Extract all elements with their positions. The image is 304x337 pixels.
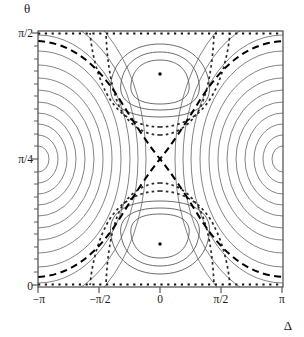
phase-portrait-plot: θ Δ π/2 π/4 0 −π −π/2 0 π/2 π bbox=[0, 0, 304, 337]
x-tick-label-pi-over-2: π/2 bbox=[214, 293, 229, 305]
contour-field bbox=[0, 0, 304, 321]
y-tick-label-zero: 0 bbox=[27, 280, 33, 292]
x-tick-label-pi: π bbox=[279, 293, 285, 305]
x-tick-label-minus-pi: −π bbox=[33, 293, 45, 305]
y-axis-label: θ bbox=[24, 1, 30, 16]
separatrix bbox=[38, 41, 283, 277]
y-tick-label-pi-over-4: π/4 bbox=[18, 153, 33, 165]
lower-elliptic-fixed-point bbox=[158, 242, 161, 245]
major-tick-marks bbox=[32, 33, 282, 293]
upper-elliptic-fixed-point bbox=[158, 72, 161, 75]
lower-island-contours bbox=[110, 201, 209, 274]
phase-portrait-figure: θ Δ π/2 π/4 0 −π −π/2 0 π/2 π bbox=[0, 0, 304, 337]
x-tick-label-zero: 0 bbox=[157, 293, 163, 305]
x-tick-label-minus-pi-over-2: −π/2 bbox=[89, 293, 110, 305]
right-circulating-contours bbox=[175, 0, 304, 321]
upper-island-contours bbox=[110, 44, 209, 117]
y-tick-label-pi-over-2: π/2 bbox=[18, 27, 33, 39]
x-axis-label: Δ bbox=[284, 318, 292, 333]
